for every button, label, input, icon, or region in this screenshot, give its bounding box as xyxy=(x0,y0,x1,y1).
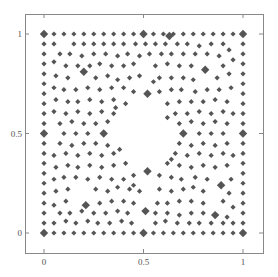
data-point xyxy=(91,230,96,235)
data-point xyxy=(221,63,226,68)
data-point xyxy=(191,31,196,36)
data-point xyxy=(51,41,56,46)
data-point xyxy=(75,109,80,114)
data-point xyxy=(75,63,80,68)
x-tick-label: 1 xyxy=(241,257,246,267)
y-tick-label: 1 xyxy=(18,29,23,39)
data-point xyxy=(73,131,78,136)
data-point xyxy=(121,177,126,182)
data-point xyxy=(57,211,62,216)
data-point xyxy=(103,51,108,56)
data-point xyxy=(153,211,158,216)
data-point xyxy=(169,87,174,92)
data-point xyxy=(221,230,226,235)
data-point xyxy=(141,207,149,215)
data-point xyxy=(85,177,90,182)
data-point xyxy=(131,173,136,178)
data-point xyxy=(111,151,116,156)
data-point xyxy=(221,109,226,114)
data-point xyxy=(189,119,194,124)
data-point xyxy=(215,75,220,80)
data-point xyxy=(91,51,96,56)
data-point xyxy=(41,41,46,46)
data-point xyxy=(240,171,245,176)
data-point xyxy=(67,211,72,216)
data-point xyxy=(151,31,156,36)
data-point xyxy=(240,141,245,146)
data-point xyxy=(115,209,120,214)
data-point xyxy=(41,161,46,166)
data-point xyxy=(240,91,245,96)
data-point xyxy=(211,31,216,36)
data-point xyxy=(197,151,202,156)
data-point xyxy=(165,201,170,206)
data-point xyxy=(87,63,92,68)
data-point xyxy=(213,97,218,102)
data-point xyxy=(221,41,226,46)
data-point xyxy=(187,220,192,225)
data-point xyxy=(173,151,178,156)
data-point xyxy=(41,81,46,86)
data-point xyxy=(177,141,182,146)
data-point xyxy=(226,191,231,196)
y-tick-label: 0 xyxy=(18,228,23,238)
data-point xyxy=(181,230,186,235)
data-point xyxy=(165,61,170,66)
data-point xyxy=(87,151,92,156)
data-point xyxy=(97,87,102,92)
data-point xyxy=(41,220,46,225)
data-point xyxy=(40,129,48,137)
data-point xyxy=(111,97,116,102)
data-point xyxy=(53,165,58,170)
data-point xyxy=(169,189,174,194)
data-point xyxy=(99,165,104,170)
data-point xyxy=(240,161,245,166)
data-point xyxy=(217,181,225,189)
data-point xyxy=(224,163,229,168)
data-point xyxy=(240,201,245,206)
data-point xyxy=(61,87,66,92)
data-point xyxy=(111,41,116,46)
data-point xyxy=(137,73,142,78)
data-point xyxy=(87,111,92,116)
data-point xyxy=(101,31,106,36)
data-point xyxy=(221,131,226,136)
data-point xyxy=(105,189,110,194)
data-point xyxy=(239,229,247,237)
data-point xyxy=(63,63,68,68)
data-point xyxy=(105,119,110,124)
data-point xyxy=(153,220,158,225)
data-point xyxy=(197,109,202,114)
data-point xyxy=(165,101,170,106)
data-point xyxy=(240,81,245,86)
data-point xyxy=(71,31,76,36)
data-point xyxy=(143,41,148,46)
data-point xyxy=(95,220,100,225)
data-point xyxy=(127,75,132,80)
data-point xyxy=(151,79,156,84)
data-point xyxy=(133,41,138,46)
data-point xyxy=(117,147,122,152)
data-point xyxy=(240,220,245,225)
data-point xyxy=(217,53,222,58)
data-point xyxy=(175,41,180,46)
data-point xyxy=(81,41,86,46)
data-point xyxy=(103,211,108,216)
data-point xyxy=(113,105,118,110)
data-point xyxy=(75,99,80,104)
data-point xyxy=(87,97,92,102)
data-point xyxy=(228,85,233,90)
data-point xyxy=(85,218,90,223)
data-point xyxy=(221,220,226,225)
data-point xyxy=(181,31,186,36)
data-point xyxy=(79,53,84,58)
data-point xyxy=(61,230,66,235)
data-point xyxy=(97,175,102,180)
data-point xyxy=(157,173,162,178)
data-point xyxy=(131,183,136,188)
data-point xyxy=(137,189,142,194)
data-point xyxy=(240,181,245,186)
data-point xyxy=(181,51,186,56)
data-point xyxy=(211,211,219,219)
data-point xyxy=(153,41,158,46)
